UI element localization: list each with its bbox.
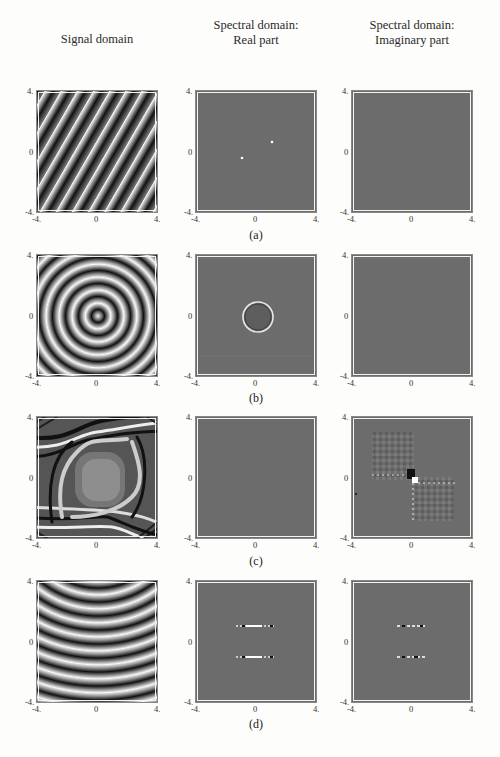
x-tick-zero: 0 [409, 541, 413, 550]
x-tick-zero: 0 [94, 541, 98, 550]
y-tick-zero: 0 [188, 638, 192, 647]
x-tick-zero: 0 [253, 705, 257, 714]
y-tick-zero: 0 [344, 638, 348, 647]
x-tick-max: 4. [154, 215, 160, 224]
x-tick-min: -4. [347, 541, 356, 550]
real-plot-a [195, 90, 317, 213]
x-tick-zero: 0 [94, 705, 98, 714]
y-tick-zero: 0 [29, 148, 33, 157]
x-tick-max: 4. [154, 541, 160, 550]
y-tick-max: 4. [186, 251, 192, 260]
imag-plot-b [351, 254, 473, 377]
y-tick-max: 4. [27, 87, 33, 96]
x-tick-zero: 0 [409, 215, 413, 224]
x-tick-min: -4. [191, 705, 200, 714]
y-tick-max: 4. [342, 413, 348, 422]
y-tick-zero: 0 [344, 312, 348, 321]
x-tick-min: -4. [191, 541, 200, 550]
x-tick-max: 4. [469, 541, 475, 550]
imag-plot-a [351, 90, 473, 213]
x-tick-zero: 0 [409, 705, 413, 714]
y-tick-max: 4. [186, 87, 192, 96]
col-heading-signal: Signal domain [22, 32, 172, 47]
x-tick-max: 4. [313, 541, 319, 550]
x-tick-max: 4. [154, 379, 160, 388]
x-tick-min: -4. [347, 379, 356, 388]
x-tick-max: 4. [469, 705, 475, 714]
real-plot-d [195, 580, 317, 703]
x-tick-zero: 0 [253, 215, 257, 224]
y-tick-zero: 0 [29, 312, 33, 321]
y-tick-max: 4. [342, 577, 348, 586]
x-tick-max: 4. [469, 215, 475, 224]
x-tick-max: 4. [313, 705, 319, 714]
y-tick-max: 4. [342, 251, 348, 260]
imag-plot-c [351, 416, 473, 539]
x-tick-min: -4. [347, 705, 356, 714]
x-tick-min: -4. [32, 215, 41, 224]
real-plot-b [195, 254, 317, 377]
caption-b: (b) [236, 391, 276, 406]
x-tick-min: -4. [32, 379, 41, 388]
x-tick-max: 4. [154, 705, 160, 714]
signal-plot-a [36, 90, 158, 213]
caption-c: (c) [236, 554, 276, 569]
col-heading-real: Spectral domain:Real part [181, 18, 331, 48]
col-heading-imag: Spectral domain:Imaginary part [337, 18, 487, 48]
y-tick-zero: 0 [188, 148, 192, 157]
x-tick-min: -4. [32, 705, 41, 714]
x-tick-zero: 0 [253, 541, 257, 550]
x-tick-zero: 0 [94, 379, 98, 388]
y-tick-zero: 0 [344, 148, 348, 157]
signal-plot-b [36, 254, 158, 377]
x-tick-max: 4. [313, 215, 319, 224]
y-tick-max: 4. [27, 577, 33, 586]
x-tick-zero: 0 [409, 379, 413, 388]
y-tick-max: 4. [342, 87, 348, 96]
imag-plot-d [351, 580, 473, 703]
x-tick-min: -4. [191, 215, 200, 224]
y-tick-zero: 0 [29, 474, 33, 483]
caption-a: (a) [236, 228, 276, 243]
x-tick-min: -4. [347, 215, 356, 224]
x-tick-zero: 0 [94, 215, 98, 224]
y-tick-max: 4. [27, 413, 33, 422]
y-tick-zero: 0 [29, 638, 33, 647]
y-tick-max: 4. [186, 413, 192, 422]
x-tick-min: -4. [32, 541, 41, 550]
caption-d: (d) [236, 717, 276, 732]
real-plot-c [195, 416, 317, 539]
y-tick-zero: 0 [344, 474, 348, 483]
x-tick-max: 4. [469, 379, 475, 388]
y-tick-zero: 0 [188, 312, 192, 321]
y-tick-max: 4. [27, 251, 33, 260]
x-tick-max: 4. [313, 379, 319, 388]
signal-plot-d [36, 580, 158, 703]
x-tick-zero: 0 [253, 379, 257, 388]
signal-plot-c [36, 416, 158, 539]
y-tick-max: 4. [186, 577, 192, 586]
x-tick-min: -4. [191, 379, 200, 388]
y-tick-zero: 0 [188, 474, 192, 483]
